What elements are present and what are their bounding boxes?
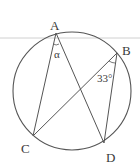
point-label-C: C bbox=[21, 141, 30, 156]
chord-BD bbox=[104, 53, 117, 143]
diagram-canvas: A B C D α 33° bbox=[0, 0, 140, 167]
circle bbox=[13, 32, 131, 150]
point-label-A: A bbox=[50, 18, 60, 33]
chord-BC bbox=[33, 53, 117, 136]
angle-arc-A bbox=[54, 44, 60, 45]
point-label-D: D bbox=[106, 150, 115, 165]
chord-AD bbox=[56, 33, 104, 143]
point-label-B: B bbox=[122, 43, 131, 58]
angle-label-33: 33° bbox=[97, 72, 112, 84]
circle-diagram: A B C D α 33° bbox=[0, 0, 140, 167]
angle-arc-B bbox=[109, 61, 115, 63]
chord-AC bbox=[33, 33, 56, 136]
angle-label-alpha: α bbox=[54, 48, 60, 60]
